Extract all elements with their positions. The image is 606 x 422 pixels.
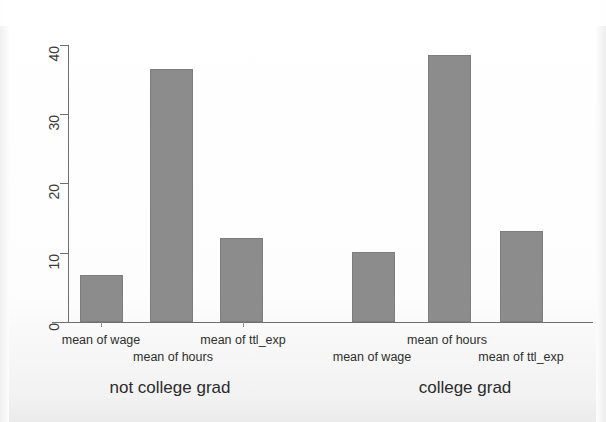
bar-chart-plot-area: 40 30 20 10 0 mean of wage mean of ttl_e… <box>0 0 606 422</box>
x-axis-line <box>52 322 593 323</box>
series-label-college-ttlexp: mean of ttl_exp <box>458 350 584 364</box>
group-label-college-grad: college grad <box>385 378 545 398</box>
bar-notcollege-wage <box>80 275 123 322</box>
y-axis-line <box>68 45 69 323</box>
y-tick-label-40: 40 <box>46 46 62 100</box>
series-label-notcollege-wage: mean of wage <box>41 333 161 347</box>
series-label-college-hours: mean of hours <box>384 333 510 347</box>
series-label-college-wage: mean of wage <box>312 350 432 364</box>
group-label-not-college-grad: not college grad <box>75 378 265 398</box>
bar-college-ttlexp <box>500 231 543 322</box>
y-tick-label-30: 30 <box>46 115 62 169</box>
series-label-notcollege-ttlexp: mean of ttl_exp <box>180 333 306 347</box>
bar-notcollege-hours <box>150 69 193 322</box>
x-tick-notcollege-wage <box>101 322 102 327</box>
x-tick-notcollege-ttlexp <box>243 322 244 327</box>
scanned-chart-figure: 40 30 20 10 0 mean of wage mean of ttl_e… <box>0 0 606 422</box>
y-tick-label-20: 20 <box>46 184 62 238</box>
y-tick-label-10: 10 <box>46 254 62 308</box>
bar-college-wage <box>352 252 395 322</box>
series-label-notcollege-hours: mean of hours <box>110 350 236 364</box>
bar-college-hours <box>428 55 471 322</box>
y-tick-label-0: 0 <box>46 323 62 377</box>
bar-notcollege-ttlexp <box>220 238 263 322</box>
